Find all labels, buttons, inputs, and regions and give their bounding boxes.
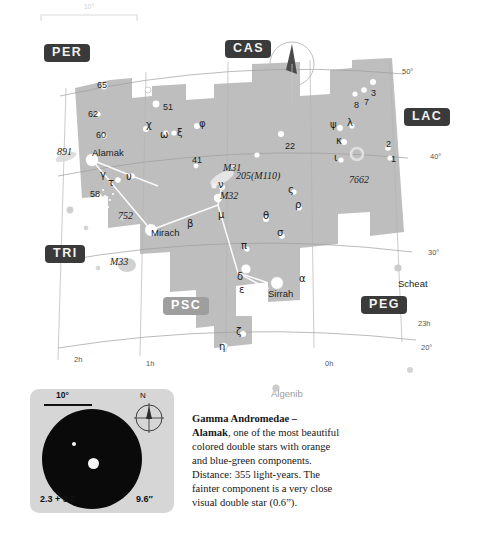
star-label-sirrah: Sirrah <box>268 289 293 299</box>
flamsteed-label-58: 58 <box>90 190 100 199</box>
constellation-label-tri[interactable]: TRI <box>45 245 85 263</box>
caption-body: , one of the most beautiful colored doub… <box>192 427 339 508</box>
inset-separation-label: 9.6″ <box>136 494 153 504</box>
chart-scale-label: 10° <box>44 3 134 10</box>
ra-tick-2h: 2h <box>74 356 82 364</box>
flamsteed-label-2: 2 <box>386 140 391 149</box>
flamsteed-label-62: 62 <box>88 110 98 119</box>
greek-label-beta: β <box>187 219 193 229</box>
constellation-label-peg[interactable]: PEG <box>361 296 407 314</box>
dso-label-m32: M32 <box>220 191 238 201</box>
dec-tick-40: 40° <box>430 153 441 161</box>
inset-scale-bar <box>44 404 92 406</box>
caption-title-line2: Alamak <box>192 427 228 438</box>
dso-label-m110: 205(M110) <box>236 171 280 181</box>
flamsteed-label-41: 41 <box>192 156 202 165</box>
dso-label-ngc752: 752 <box>118 211 133 221</box>
flamsteed-label-22: 22 <box>285 142 295 151</box>
greek-label-theta: θ <box>263 211 269 221</box>
star-label-algenib: Algenib <box>271 389 303 399</box>
object-caption: Gamma Andromedae – Alamak, one of the mo… <box>192 412 342 511</box>
dso-label-ngc7662: 7662 <box>349 175 369 185</box>
greek-label-alpha: α <box>299 274 306 284</box>
greek-label-lambda: λ <box>347 118 353 128</box>
ra-tick-1h: 1h <box>146 360 154 368</box>
primary-star-marker <box>88 458 99 469</box>
greek-label-nu: ν <box>218 180 224 190</box>
inset-scale-label: 10° <box>56 390 69 400</box>
greek-label-zeta: ζ <box>236 327 241 337</box>
ra-tick-0h: 0h <box>325 360 333 368</box>
flamsteed-label-8: 8 <box>354 101 359 110</box>
dso-label-m33: M33 <box>110 257 128 267</box>
chart-scale-bar <box>40 12 138 22</box>
greek-label-omega: ω <box>160 130 168 140</box>
ra-tick-23h: 23h <box>418 320 431 328</box>
greek-label-phi: φ <box>199 119 206 129</box>
greek-label-epsilon: ε <box>239 285 244 295</box>
dec-tick-50: 50° <box>402 68 413 76</box>
eyepiece-inset-panel: 10° N 2.3 + 5.0 9.6″ <box>30 389 174 513</box>
greek-label-xi: ξ <box>177 128 183 138</box>
dec-tick-20: 20° <box>421 344 432 352</box>
greek-label-mu: μ <box>218 210 224 220</box>
dso-label-ngc891: 891 <box>57 147 72 157</box>
greek-label-delta: δ <box>237 272 243 282</box>
flamsteed-label-51: 51 <box>163 103 173 112</box>
star-label-mirach: Mirach <box>151 228 180 238</box>
flamsteed-label-1: 1 <box>391 155 396 164</box>
greek-label-tau: τ <box>108 178 114 188</box>
companion-star-marker <box>72 442 76 446</box>
constellation-label-lac[interactable]: LAC <box>404 108 450 126</box>
inset-compass-icon <box>132 401 166 435</box>
greek-label-iota: ι <box>334 153 337 163</box>
greek-label-pi: π <box>241 241 247 251</box>
m32-glyph <box>211 183 216 188</box>
greek-label-gamma: γ <box>100 170 106 180</box>
greek-label-rho: ρ <box>295 200 301 210</box>
greek-label-kappa: κ <box>336 136 342 146</box>
flamsteed-label-65: 65 <box>97 81 107 90</box>
greek-label-upsilon: υ <box>126 172 132 182</box>
greek-label-chi: χ <box>146 120 152 130</box>
star-chart: 10° PER CAS LAC TRI PSC PEG Alamak Mirac… <box>0 0 486 400</box>
caption-title-line1: Gamma Andromedae – <box>192 413 297 424</box>
star-label-scheat: Scheat <box>398 279 428 289</box>
greek-label-sigma-final: ς <box>288 185 294 195</box>
greek-label-eta: η <box>219 342 225 352</box>
flamsteed-label-3: 3 <box>371 89 376 98</box>
dec-tick-30: 30° <box>428 249 439 257</box>
constellation-label-cas[interactable]: CAS <box>225 40 271 58</box>
flamsteed-label-7: 7 <box>364 98 369 107</box>
flamsteed-label-60: 60 <box>96 131 106 140</box>
inset-magnitude-label: 2.3 + 5.0 <box>40 494 75 504</box>
star-label-alamak: Alamak <box>92 148 124 158</box>
greek-label-psi: ψ <box>330 120 337 130</box>
greek-label-sigma: σ <box>277 228 283 238</box>
constellation-label-per[interactable]: PER <box>44 44 90 62</box>
constellation-label-psc[interactable]: PSC <box>163 297 209 315</box>
inset-north-label: N <box>140 391 146 400</box>
